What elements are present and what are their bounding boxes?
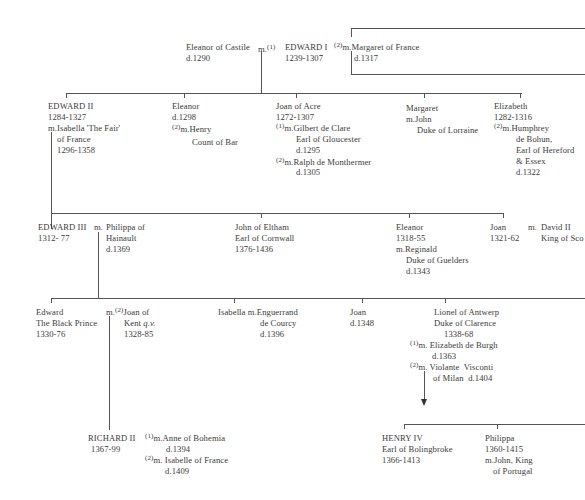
death-date: d.1369 xyxy=(106,244,130,255)
connector xyxy=(520,93,521,98)
name: m.Margaret of France xyxy=(342,42,419,52)
sibling-line-gen3 xyxy=(51,213,211,214)
sibling-line-gen4 xyxy=(51,298,585,299)
spouse-name: m.Humphrey xyxy=(502,123,549,133)
arrow-down-icon xyxy=(421,399,427,406)
death-date: d.1343 xyxy=(406,266,430,277)
person-edward-black-prince: Edward xyxy=(36,307,63,318)
dates: 1360-1415 xyxy=(485,444,523,455)
connector xyxy=(445,298,446,303)
connector xyxy=(351,28,585,29)
dates: 1328-85 xyxy=(124,329,153,340)
spouse: Duke of Lorraine xyxy=(417,125,478,136)
title: The Black Prince xyxy=(36,318,97,329)
death-date: d.1305 xyxy=(296,167,320,178)
spouse-name: m. Violante Visconti xyxy=(418,362,493,372)
connector xyxy=(51,213,52,217)
marriage-number: (1) xyxy=(267,43,275,51)
spouse: (2)m.Humphrey xyxy=(494,121,549,134)
spouse: (1)m. Elizabeth de Burgh xyxy=(410,338,498,351)
person-eleanor: Eleanor xyxy=(396,222,423,233)
person-henry-iv: HENRY IV xyxy=(382,433,423,444)
spouse: Hainault xyxy=(106,233,136,244)
person-margaret-of-france: (2)m.Margaret of France xyxy=(334,40,419,53)
qv-reference: q.v. xyxy=(143,318,155,328)
spouse-name: m.Henry xyxy=(180,124,211,134)
spouse: (2)m. Violante Visconti xyxy=(410,360,493,373)
marriage-prefix: m. xyxy=(258,44,267,54)
spouse-name: Joan of xyxy=(124,307,150,317)
person-edward-i: EDWARD I xyxy=(285,42,328,53)
spouse: of France xyxy=(57,134,91,145)
person-elizabeth: Elizabeth xyxy=(494,101,527,112)
death-date: d.1295 xyxy=(296,145,320,156)
spouse: m.Reginald xyxy=(396,244,437,255)
person-edward-ii: EDWARD II xyxy=(48,101,94,112)
death-date: d.1348 xyxy=(350,318,374,329)
marriage-number: (2) xyxy=(115,306,123,314)
spouse: de Bohun, xyxy=(516,134,552,145)
spouse-name: Enguerrand xyxy=(257,307,298,317)
sibling-line-gen3 xyxy=(211,213,411,214)
title: Earl of Cornwall xyxy=(235,233,294,244)
sibling-line-gen5 xyxy=(404,424,585,425)
dates: 1367-99 xyxy=(91,444,120,455)
spouse: (2)m.Henry xyxy=(172,122,211,135)
dates: d.1298 xyxy=(172,112,196,123)
connector xyxy=(51,298,52,303)
title: Duke of Clarence xyxy=(434,318,496,329)
spouse: (2)m.Ralph de Monthermer xyxy=(276,155,371,168)
connector xyxy=(351,74,585,75)
person-joan-of-acre: Joan of Acre xyxy=(276,101,321,112)
marriage-prefix: m. xyxy=(106,307,115,317)
connector xyxy=(98,232,99,299)
descent-arrow-line xyxy=(424,371,425,400)
spouse-joan-of-kent: m.(2)Joan of xyxy=(106,305,149,318)
dates: 1321-62 xyxy=(490,233,519,244)
spouse: de Courcy xyxy=(260,318,296,329)
spouse-david-ii: David II xyxy=(541,222,571,233)
title: Earl of Bolingbroke xyxy=(382,444,453,455)
sibling-line-gen2 xyxy=(66,93,522,94)
spouse: (1)m.Gilbert de Clare xyxy=(276,121,350,134)
dates: 1376-1436 xyxy=(235,244,273,255)
spouse: of Portugal xyxy=(493,466,533,477)
person-eleanor-of-castile: Eleanor of Castile xyxy=(186,42,250,53)
connector xyxy=(351,51,352,74)
death-date: d.1322 xyxy=(516,167,540,178)
person-margaret: Margaret xyxy=(406,103,438,114)
dates: 1330-76 xyxy=(36,329,65,340)
spouse: Earl of Hereford xyxy=(516,145,574,156)
spouse-name: m. Elizabeth de Burgh xyxy=(418,340,497,350)
connector xyxy=(261,213,262,218)
dates: 1366-1413 xyxy=(382,455,420,466)
spouse-name: m.Gilbert de Clare xyxy=(284,123,350,133)
dates: 1239-1307 xyxy=(285,53,323,64)
spouse: of Milan d.1404 xyxy=(433,373,492,384)
marriage-prefix: m. xyxy=(94,222,103,233)
person-joan: Joan xyxy=(490,222,506,233)
death-date: d.1396 xyxy=(260,329,284,340)
person-philippa: Philippa xyxy=(485,433,514,444)
connector xyxy=(351,28,352,37)
name: Isabella xyxy=(218,307,246,317)
name: Eleanor of Castile xyxy=(186,42,250,52)
person-lionel-of-antwerp: Lionel of Antwerp xyxy=(434,307,499,318)
connector xyxy=(66,93,67,98)
spouse: Duke of Guelders xyxy=(406,255,469,266)
spouse-name: m. Isabelle of France xyxy=(153,455,228,465)
spouse: & Essex xyxy=(516,156,546,167)
spouse-name: Kent xyxy=(124,318,143,328)
person-joan: Joan xyxy=(350,307,366,318)
connector xyxy=(261,51,262,93)
connector xyxy=(296,93,297,98)
death-date: d.1290 xyxy=(186,53,210,64)
spouse: m.Isabella 'The Fair' xyxy=(48,123,120,134)
spouse: King of Sco xyxy=(541,233,584,244)
spouse-philippa: Philippa of xyxy=(106,222,145,233)
person-richard-ii: RICHARD II xyxy=(88,433,136,444)
spouse: Kent q.v. xyxy=(124,318,156,329)
spouse: Count of Bar xyxy=(192,137,238,148)
spouse: Earl of Gloucester xyxy=(296,134,361,145)
person-john-of-eltham: John of Eltham xyxy=(235,222,289,233)
